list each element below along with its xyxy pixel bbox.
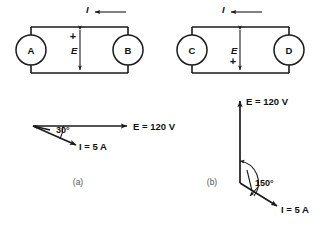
phasor-current-label-a: I = 5 A xyxy=(79,141,107,152)
device-label-b: B xyxy=(125,45,132,56)
angle-label-a: 30° xyxy=(56,125,70,135)
polarity-sign-b: + xyxy=(230,55,236,67)
phasor-voltage-label-b: E = 120 V xyxy=(246,96,289,107)
caption-b: (b) xyxy=(207,177,218,187)
current-symbol-b: I xyxy=(222,4,225,15)
text-layer: A B I + E E = 120 V I = 5 A 30° (a) C D … xyxy=(0,0,328,229)
current-symbol-a: I xyxy=(86,4,89,15)
angle-label-b: 150° xyxy=(255,178,274,188)
device-label-c: C xyxy=(189,45,196,56)
figure-canvas: A B I + E E = 120 V I = 5 A 30° (a) C D … xyxy=(0,0,328,229)
voltage-symbol-b: E xyxy=(231,45,238,56)
caption-a: (a) xyxy=(73,177,84,187)
phasor-voltage-label-a: E = 120 V xyxy=(133,121,176,132)
phasor-current-label-b: I = 5 A xyxy=(281,204,309,215)
device-label-a: A xyxy=(28,45,35,56)
voltage-symbol-a: E xyxy=(71,45,78,56)
device-label-d: D xyxy=(286,45,293,56)
polarity-sign-a: + xyxy=(70,30,76,42)
